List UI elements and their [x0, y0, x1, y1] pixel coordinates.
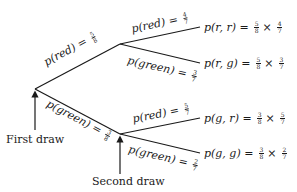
outcome-rg: p(r, g) = 58 × 37 — [204, 57, 284, 70]
probability-tree-diagram: p(red) = 58 p(green) = 38 p(red) = 47 p(… — [0, 0, 297, 192]
outcome-gr: p(g, r) = 38 × 57 — [204, 112, 285, 125]
outcome-gg: p(g, g) = 38 × 27 — [204, 147, 287, 160]
caption-first-draw: First draw — [6, 134, 64, 145]
caption-second-draw: Second draw — [92, 176, 165, 187]
outcome-rr: p(r, r) = 58 × 47 — [204, 21, 282, 34]
